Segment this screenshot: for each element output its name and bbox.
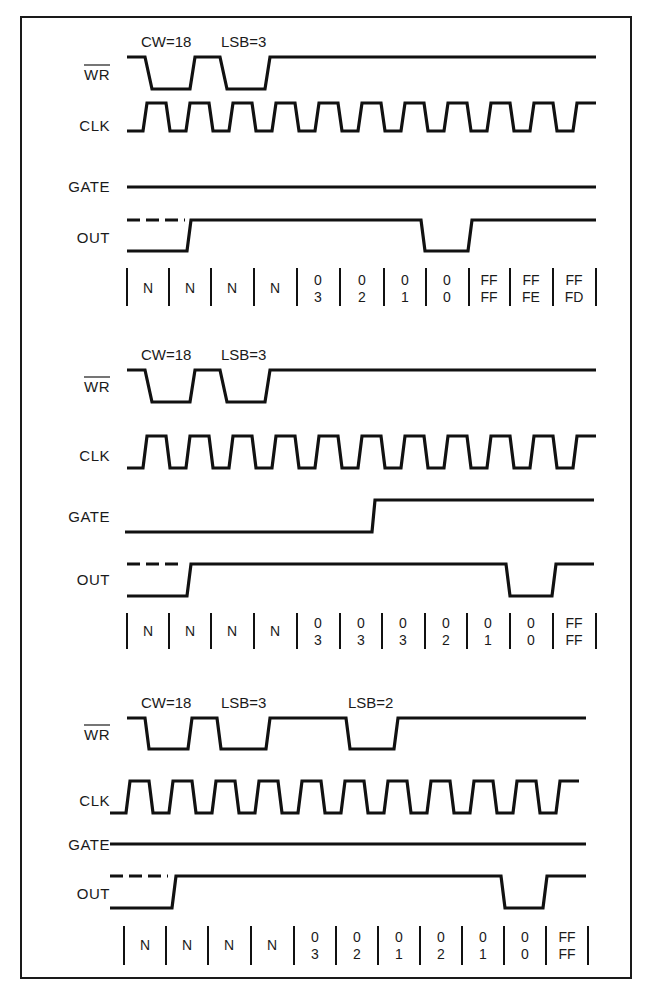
signal-label-wr: WR (84, 378, 110, 395)
waveform-out (127, 220, 596, 251)
annotation-cw: CW=18 (141, 33, 191, 50)
count-msb: 0 (399, 615, 407, 631)
timing-diagram: CW=18 LSB=3 WR CLK GATE OUT N N N (0, 0, 646, 998)
count-msb: FF (558, 929, 575, 945)
count-msb: 0 (353, 929, 361, 945)
count-lsb: 0 (521, 946, 529, 962)
count-lsb: 1 (484, 632, 492, 648)
annotation-lsb-2: LSB=2 (348, 694, 393, 711)
annotation-lsb: LSB=3 (221, 694, 266, 711)
count-msb: 0 (314, 272, 322, 288)
count-msb: 0 (314, 615, 322, 631)
count-lsb: 2 (437, 946, 445, 962)
annotation-lsb: LSB=3 (221, 346, 266, 363)
annotation-lsb: LSB=3 (221, 33, 266, 50)
count-msb: 0 (484, 615, 492, 631)
signal-label-gate: GATE (68, 178, 110, 195)
count-cell: N (270, 280, 280, 296)
count-row: N N N N 0 3 0 2 0 1 0 2 0 1 0 0 FF FF (124, 926, 588, 965)
count-msb: 0 (395, 929, 403, 945)
count-lsb: FD (565, 289, 584, 305)
count-msb: 0 (527, 615, 535, 631)
count-cell: N (143, 280, 153, 296)
signal-label-clk: CLK (79, 117, 110, 134)
count-msb: FF (522, 272, 539, 288)
count-msb: FF (565, 272, 582, 288)
count-msb: 0 (442, 615, 450, 631)
count-cell: N (227, 623, 237, 639)
count-msb: 0 (311, 929, 319, 945)
count-lsb: 3 (357, 632, 365, 648)
annotation-cw: CW=18 (141, 346, 191, 363)
count-lsb: 1 (479, 946, 487, 962)
count-lsb: FE (522, 289, 540, 305)
count-cell: N (270, 623, 280, 639)
waveform-gate (125, 500, 594, 532)
count-lsb: 2 (353, 946, 361, 962)
panel-1: CW=18 LSB=3 WR CLK GATE OUT N N N (68, 33, 596, 306)
count-lsb: 1 (401, 289, 409, 305)
count-row: N N N N 0 3 0 2 0 1 0 0 FF FF FF FE FF F… (127, 268, 596, 306)
annotation-cw: CW=18 (141, 694, 191, 711)
count-msb: 0 (437, 929, 445, 945)
count-msb: 0 (357, 615, 365, 631)
count-lsb: 1 (395, 946, 403, 962)
count-msb: 0 (479, 929, 487, 945)
count-lsb: FF (558, 946, 575, 962)
count-msb: FF (565, 615, 582, 631)
count-msb: 0 (401, 272, 409, 288)
count-cell: N (227, 280, 237, 296)
count-cell: N (267, 937, 277, 953)
waveform-clk (110, 781, 579, 813)
count-cell: N (185, 623, 195, 639)
count-lsb: FF (565, 632, 582, 648)
count-lsb: 0 (527, 632, 535, 648)
count-cell: N (185, 280, 195, 296)
count-msb: 0 (358, 272, 366, 288)
waveform-wr (127, 370, 596, 402)
waveform-wr (127, 718, 586, 749)
count-msb: 0 (521, 929, 529, 945)
count-cell: N (140, 937, 150, 953)
signal-label-clk: CLK (79, 447, 110, 464)
waveform-out (127, 564, 594, 596)
count-lsb: 3 (314, 289, 322, 305)
panel-3: CW=18 LSB=3 LSB=2 WR CLK GATE OUT N N (68, 694, 588, 965)
waveform-out (110, 876, 586, 908)
signal-label-out: OUT (77, 571, 110, 588)
count-cell: N (182, 937, 192, 953)
signal-label-wr: WR (84, 726, 110, 743)
count-lsb: 3 (399, 632, 407, 648)
count-cell: N (224, 937, 234, 953)
panel-2: CW=18 LSB=3 WR CLK GATE OUT N N N (68, 346, 596, 649)
waveform-clk (127, 436, 596, 468)
count-lsb: 3 (314, 632, 322, 648)
waveform-wr (127, 57, 596, 89)
count-lsb: 2 (442, 632, 450, 648)
count-lsb: 0 (443, 289, 451, 305)
signal-label-clk: CLK (79, 792, 110, 809)
signal-label-gate: GATE (68, 508, 110, 525)
waveform-clk (127, 103, 596, 131)
signal-label-wr: WR (84, 66, 110, 83)
count-cell: N (143, 623, 153, 639)
count-msb: 0 (443, 272, 451, 288)
count-lsb: 2 (358, 289, 366, 305)
signal-label-out: OUT (77, 885, 110, 902)
count-row: N N N N 0 3 0 3 0 3 0 2 0 1 0 0 FF FF (127, 613, 596, 649)
count-lsb: 3 (311, 946, 319, 962)
signal-label-out: OUT (77, 229, 110, 246)
count-msb: FF (480, 272, 497, 288)
count-lsb: FF (480, 289, 497, 305)
signal-label-gate: GATE (68, 836, 110, 853)
